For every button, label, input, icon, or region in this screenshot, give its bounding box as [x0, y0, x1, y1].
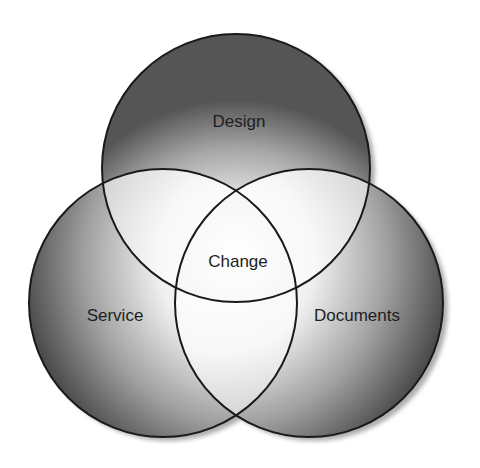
- label-change: Change: [208, 252, 268, 271]
- label-design: Design: [213, 112, 266, 131]
- label-service: Service: [87, 306, 144, 325]
- label-documents: Documents: [314, 306, 400, 325]
- venn-diagram: Design Service Documents Change: [0, 0, 480, 468]
